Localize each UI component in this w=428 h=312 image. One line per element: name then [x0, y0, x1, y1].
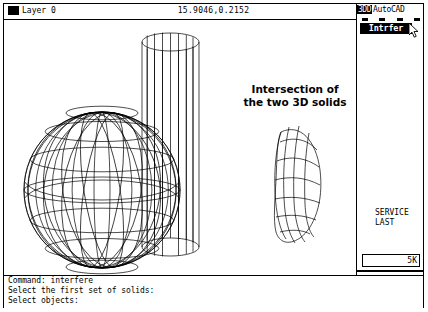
intersection-solid [274, 126, 320, 243]
service-line-2: LAST [375, 218, 394, 227]
command-line-row: Command: interfere [4, 276, 423, 286]
side-menu-header: 3DD AutoCAD [357, 4, 405, 15]
separator-dash-icon [379, 18, 385, 21]
menu-item-intrfer[interactable]: Intrfer [360, 23, 412, 34]
command-line-row: Select the first set of solids: [4, 286, 423, 296]
window-frame: Layer 0 15.9046,0.2152 [3, 3, 424, 308]
service-line-1: SERVICE [375, 208, 409, 217]
wireframe-cylinder [142, 33, 199, 257]
annotation-text: Intersection of the two 3D solids [232, 83, 356, 109]
wireframe-drawing [4, 20, 356, 275]
side-menu-panel[interactable]: 3DD AutoCAD Intrfer SERVICE LAST 5K [356, 4, 423, 275]
autocad-window: Layer 0 15.9046,0.2152 [0, 0, 428, 312]
annotation-line-2: the two 3D solids [232, 96, 356, 109]
menu-group-tag[interactable]: 3DD [357, 5, 372, 14]
separator-dash-icon [414, 18, 420, 21]
separator-dash-icon [362, 18, 368, 21]
memory-indicator-value: 5K [363, 255, 417, 266]
service-status-text: SERVICE LAST [375, 208, 409, 228]
annotation-line-1: Intersection of [232, 83, 356, 96]
menu-separator-dashes [362, 15, 420, 23]
mouse-cursor-arrow-icon [409, 23, 421, 39]
drawing-canvas[interactable]: Intersection of the two 3D solids [4, 20, 356, 275]
command-line-area[interactable]: Command: interfere Select the first set … [4, 275, 423, 308]
separator-dash-icon [397, 18, 403, 21]
wireframe-sphere [17, 101, 188, 275]
command-line-row[interactable]: Select objects: [4, 296, 423, 306]
memory-indicator-box[interactable]: 5K [362, 254, 420, 267]
menu-app-label[interactable]: AutoCAD [372, 5, 405, 14]
side-menu-bottom-rule [357, 270, 423, 272]
